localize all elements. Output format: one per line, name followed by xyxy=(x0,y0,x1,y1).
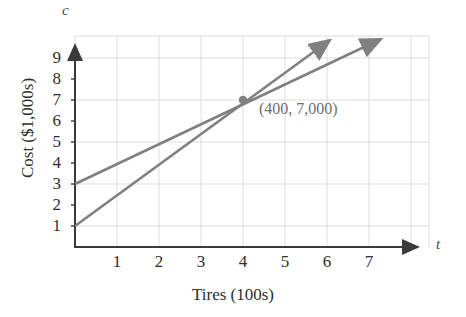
x-tick-label-7: 7 xyxy=(359,252,379,272)
x-tick-label-6: 6 xyxy=(317,252,337,272)
y-tick-label-5: 5 xyxy=(45,132,61,152)
y-tick-label-8: 8 xyxy=(45,69,61,89)
axes xyxy=(75,45,418,248)
cost-line-steep xyxy=(75,40,330,226)
cost-vs-tires-chart: c t 9 8 7 6 5 4 3 2 1 1 2 3 4 5 6 7 (400… xyxy=(0,0,466,317)
series-lines xyxy=(75,39,381,226)
y-axis-variable-label: c xyxy=(62,2,69,19)
gridlines xyxy=(75,36,429,248)
x-axis-variable-label: t xyxy=(436,236,440,253)
x-tick-label-1: 1 xyxy=(107,252,127,272)
intersection-annotation-label: (400, 7,000) xyxy=(259,100,338,118)
x-axis-title: Tires (100s) xyxy=(0,285,466,305)
y-tick-label-9: 9 xyxy=(45,48,61,68)
x-tick-label-5: 5 xyxy=(275,252,295,272)
y-tick-label-4: 4 xyxy=(45,153,61,173)
x-tick-label-2: 2 xyxy=(149,252,169,272)
y-tick-label-3: 3 xyxy=(45,174,61,194)
y-axis-title: Cost ($1,000s) xyxy=(18,38,38,218)
x-tick-label-3: 3 xyxy=(191,252,211,272)
x-tick-label-4: 4 xyxy=(233,252,253,272)
y-tick-label-7: 7 xyxy=(45,90,61,110)
y-tick-label-2: 2 xyxy=(45,195,61,215)
y-tick-label-6: 6 xyxy=(45,111,61,131)
intersection-point-marker xyxy=(239,96,247,104)
y-tick-label-1: 1 xyxy=(45,216,61,236)
